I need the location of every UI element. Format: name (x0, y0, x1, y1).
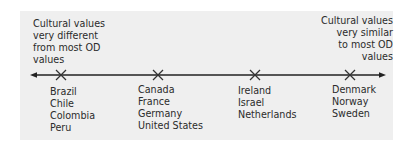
country-group-1: Brazil Chile Colombia Peru (50, 86, 95, 134)
country-label: Brazil (50, 86, 95, 98)
country-label: Netherlands (238, 109, 296, 121)
country-label: Israel (238, 97, 296, 109)
country-label: Ireland (238, 85, 296, 97)
country-label: Colombia (50, 110, 95, 122)
country-label: United States (138, 120, 203, 132)
country-label: Denmark (332, 84, 376, 96)
arrow-right-icon (379, 72, 386, 77)
country-label: Peru (50, 122, 95, 134)
country-label: France (138, 96, 203, 108)
country-label: Sweden (332, 108, 376, 120)
country-label: Norway (332, 96, 376, 108)
country-group-2: Canada France Germany United States (138, 84, 203, 132)
country-label: Canada (138, 84, 203, 96)
country-label: Germany (138, 108, 203, 120)
country-group-3: Ireland Israel Netherlands (238, 85, 296, 121)
arrow-left-icon (30, 72, 37, 77)
country-group-4: Denmark Norway Sweden (332, 84, 376, 120)
country-label: Chile (50, 98, 95, 110)
